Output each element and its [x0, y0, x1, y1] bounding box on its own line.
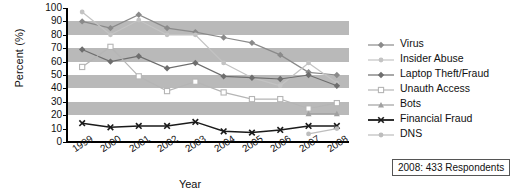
legend-item-insider-abuse[interactable]: Insider Abuse: [368, 51, 528, 65]
data-point-marker: [278, 97, 283, 102]
y-tick-label: 60: [36, 57, 62, 67]
legend-item-bots[interactable]: Bots: [368, 96, 528, 110]
y-tick: 80: [0, 30, 62, 40]
legend-item-label: Financial Fraud: [400, 112, 472, 124]
data-point-marker: [220, 73, 226, 79]
y-tick-mark: [63, 129, 67, 130]
y-tick-mark: [63, 35, 67, 36]
data-point-marker: [334, 72, 340, 78]
legend-key-icon: [368, 127, 394, 139]
data-point-marker: [192, 60, 198, 66]
y-tick: 0: [0, 137, 62, 147]
data-point-marker: [164, 88, 169, 93]
data-point-marker: [136, 18, 141, 23]
series-layer: [66, 8, 349, 142]
data-point-marker: [108, 44, 113, 49]
data-point-marker: [79, 46, 85, 52]
legend-item-dns[interactable]: DNS: [368, 126, 528, 140]
y-tick-mark: [63, 115, 67, 116]
legend-key-icon: [368, 112, 394, 124]
y-tick-mark: [63, 102, 67, 103]
data-point-marker: [164, 65, 170, 71]
data-point-marker: [108, 32, 113, 37]
data-point-marker: [278, 83, 283, 88]
data-point-marker: [136, 12, 142, 18]
legend-item-label: Bots: [400, 97, 421, 109]
legend-key-icon: [368, 82, 394, 94]
data-point-marker: [107, 58, 113, 64]
data-point-marker: [79, 18, 85, 24]
y-tick-mark: [63, 62, 67, 63]
y-tick-label: 90: [36, 16, 62, 26]
series-virus: [79, 12, 340, 79]
y-tick-mark: [63, 21, 67, 22]
legend-key-icon: [368, 37, 394, 49]
y-axis-title: Percent (%): [13, 13, 25, 103]
series-unauth-access: [80, 44, 340, 111]
data-point-marker: [164, 25, 170, 31]
y-tick-mark: [63, 48, 67, 49]
data-point-marker: [249, 40, 255, 46]
legend-item-financial-fraud[interactable]: Financial Fraud: [368, 111, 528, 125]
data-point-marker: [379, 133, 384, 138]
data-point-marker: [277, 52, 283, 58]
legend-item-unauth-access[interactable]: Unauth Access: [368, 81, 528, 95]
y-tick: 90: [0, 16, 62, 26]
legend-item-label: Virus: [400, 37, 424, 49]
data-point-marker: [80, 64, 85, 69]
data-point-marker: [193, 32, 198, 37]
data-point-marker: [80, 10, 85, 15]
data-point-marker: [136, 53, 142, 59]
line-chart-figure: 0102030405060708090100 Percent (%) 19992…: [0, 0, 531, 195]
data-point-marker: [165, 32, 170, 37]
y-tick-label: 100: [36, 3, 62, 13]
y-tick-mark: [63, 8, 67, 9]
legend-item-label: DNS: [400, 127, 422, 139]
y-tick: 40: [0, 83, 62, 93]
y-tick-label: 30: [36, 97, 62, 107]
series-line: [82, 50, 337, 86]
series-line: [82, 122, 337, 133]
legend-key-icon: [368, 52, 394, 64]
y-tick: 70: [0, 43, 62, 53]
series-financial-fraud: [79, 119, 339, 135]
data-point-marker: [249, 97, 254, 102]
y-tick-label: 0: [36, 137, 62, 147]
series-bots: [306, 111, 340, 116]
y-tick-mark: [63, 142, 67, 143]
data-point-marker: [249, 74, 255, 80]
legend: VirusInsider AbuseLaptop Theft/FraudUnau…: [368, 36, 528, 141]
y-tick-label: 80: [36, 30, 62, 40]
plot-area: [66, 8, 349, 142]
y-tick-label: 20: [36, 110, 62, 120]
respondents-note: 2008: 433 Respondents: [392, 159, 510, 176]
y-tick-label: 50: [36, 70, 62, 80]
data-point-marker: [379, 58, 384, 63]
data-point-marker: [378, 87, 383, 92]
y-tick: 50: [0, 70, 62, 80]
data-point-marker: [221, 61, 226, 66]
x-axis-title: Year: [120, 178, 260, 190]
y-tick: 100: [0, 3, 62, 13]
legend-item-laptop-theft-fraud[interactable]: Laptop Theft/Fraud: [368, 66, 528, 80]
y-tick: 30: [0, 97, 62, 107]
legend-item-virus[interactable]: Virus: [368, 36, 528, 50]
y-tick: 20: [0, 110, 62, 120]
legend-key-icon: [368, 97, 394, 109]
data-point-marker: [306, 61, 311, 66]
data-point-marker: [378, 42, 384, 48]
y-tick-label: 70: [36, 43, 62, 53]
y-tick: 10: [0, 124, 62, 134]
data-point-marker: [220, 34, 226, 40]
data-point-marker: [193, 79, 198, 84]
legend-item-label: Insider Abuse: [400, 52, 464, 64]
y-tick-mark: [63, 88, 67, 89]
data-point-marker: [334, 126, 339, 131]
data-point-marker: [277, 76, 283, 82]
series-line: [82, 47, 337, 109]
y-tick-mark: [63, 75, 67, 76]
y-tick: 60: [0, 57, 62, 67]
data-point-marker: [107, 25, 113, 31]
y-tick-label: 40: [36, 83, 62, 93]
data-point-marker: [136, 74, 141, 79]
